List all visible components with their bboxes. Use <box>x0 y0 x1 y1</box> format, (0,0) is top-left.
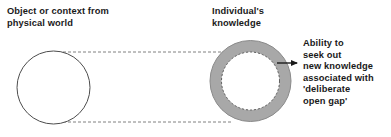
label-ability-seek-new-knowledge: Ability to seek out new knowledge associ… <box>303 38 374 108</box>
label-physical-world: Object or context from physical world <box>7 6 109 29</box>
label-individual-knowledge: Individual's knowledge <box>212 6 264 29</box>
knowledge-gap-diagram: Object or context from physical world In… <box>0 0 391 137</box>
